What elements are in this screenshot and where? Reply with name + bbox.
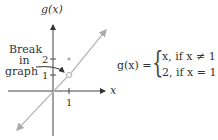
open-point-hole bbox=[67, 73, 72, 78]
graph-line bbox=[17, 77, 67, 130]
x-tick-label-1: 1 bbox=[66, 97, 72, 108]
filled-point bbox=[67, 57, 70, 60]
formula-lhs: g(x) = bbox=[117, 60, 152, 71]
x-axis-label: x bbox=[110, 85, 116, 96]
y-tick-label-1: 1 bbox=[42, 70, 48, 81]
y-tick-label-2: 2 bbox=[42, 54, 48, 65]
break-arrow bbox=[36, 67, 64, 72]
formula-case-1: x, if x ≠ 1 bbox=[162, 51, 216, 62]
formula-case-2: 2, if x = 1 bbox=[162, 67, 217, 78]
graph-line-upper bbox=[71, 30, 106, 73]
y-axis-label: g(x) bbox=[41, 4, 63, 15]
annotation-line-3: graph bbox=[5, 66, 38, 77]
